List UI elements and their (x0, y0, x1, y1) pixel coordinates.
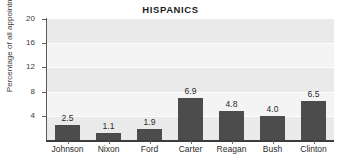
bar (137, 129, 162, 140)
y-tick-row: 20 (0, 14, 42, 24)
y-tick-label: 12 (15, 62, 35, 71)
y-tick-label: 4 (15, 111, 35, 120)
y-tick-row: 4 (0, 111, 42, 121)
y-tick-row: 16 (0, 38, 42, 48)
bar (219, 111, 244, 140)
bar-value-label: 6.5 (295, 89, 333, 99)
y-tick-mark (42, 67, 46, 68)
bar (55, 125, 80, 140)
y-axis-line (46, 18, 47, 141)
x-tick-mark (150, 141, 151, 144)
x-tick-mark (232, 141, 233, 144)
y-tick-mark (42, 43, 46, 44)
bar (96, 133, 121, 140)
y-tick-mark (42, 19, 46, 20)
bar-value-label: 1.1 (90, 121, 128, 131)
x-tick-mark (68, 141, 69, 144)
bar-value-label: 1.9 (131, 117, 169, 127)
y-tick-mark (42, 92, 46, 93)
plot-band (47, 19, 334, 43)
y-tick-label: 8 (15, 87, 35, 96)
grid-line (47, 43, 334, 44)
chart-title: HISPANICS (0, 4, 341, 15)
bar-value-label: 2.5 (49, 113, 87, 123)
y-tick-label: 16 (15, 38, 35, 47)
bar-value-label: 4.8 (213, 99, 251, 109)
x-tick-mark (273, 141, 274, 144)
x-tick-mark (314, 141, 315, 144)
x-axis-labels: JohnsonNixonFordCarterReaganBushClinton (47, 144, 334, 164)
y-tick-label: 20 (15, 14, 35, 23)
x-tick-mark (109, 141, 110, 144)
bar-value-label: 6.9 (172, 86, 210, 96)
bar-value-label: 4.0 (254, 104, 292, 114)
y-tick-row: 12 (0, 62, 42, 72)
y-axis-ticks: 48121620 (0, 0, 42, 166)
bar-chart-hispanics: HISPANICS Percentage of all appointments… (0, 0, 341, 166)
bar (178, 98, 203, 140)
y-tick-mark (42, 116, 46, 117)
x-tick-mark (191, 141, 192, 144)
grid-line (47, 67, 334, 68)
y-tick-row: 8 (0, 87, 42, 97)
bar (260, 116, 285, 140)
x-axis-label-clinton: Clinton (288, 144, 340, 154)
plot-band (47, 43, 334, 67)
bar (301, 101, 326, 140)
